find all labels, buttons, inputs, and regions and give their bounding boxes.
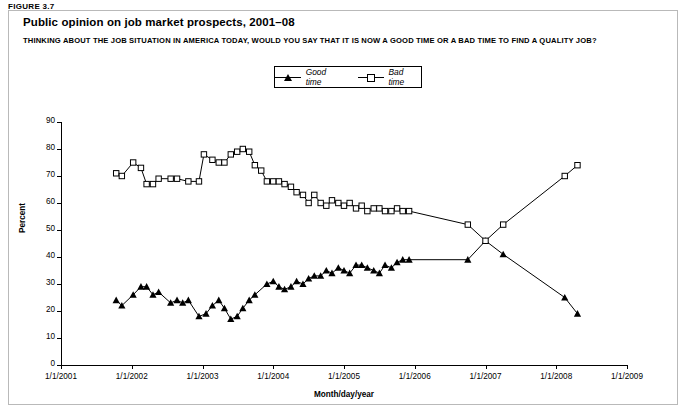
data-point-marker bbox=[400, 208, 405, 213]
data-point-marker bbox=[195, 313, 202, 320]
data-point-marker bbox=[300, 192, 305, 197]
legend-label-good-time: Good time bbox=[306, 67, 344, 87]
data-point-marker bbox=[294, 190, 299, 195]
data-point-marker bbox=[465, 222, 470, 227]
data-point-marker bbox=[174, 176, 179, 181]
y-tick-label: 70 bbox=[25, 170, 55, 179]
data-point-marker bbox=[196, 179, 201, 184]
data-point-marker bbox=[221, 305, 228, 312]
data-point-marker bbox=[382, 208, 387, 213]
y-tick-label: 40 bbox=[25, 251, 55, 260]
series-line-bad-time bbox=[116, 149, 577, 241]
data-point-marker bbox=[359, 203, 364, 208]
y-tick-label: 90 bbox=[25, 116, 55, 125]
data-point-marker bbox=[347, 200, 352, 205]
chart-subtitle: THINKING ABOUT THE JOB SITUATION IN AMER… bbox=[23, 36, 597, 45]
data-point-marker bbox=[371, 206, 376, 211]
x-tick-label: 1/1/2006 bbox=[385, 372, 445, 381]
data-point-marker bbox=[130, 160, 135, 165]
y-tick-label: 0 bbox=[25, 359, 55, 368]
data-point-marker bbox=[259, 168, 264, 173]
data-point-marker bbox=[227, 316, 234, 323]
data-point-marker bbox=[222, 160, 227, 165]
x-tick bbox=[273, 365, 274, 369]
data-point-marker bbox=[318, 200, 323, 205]
data-point-marker bbox=[155, 289, 162, 296]
data-point-marker bbox=[575, 163, 580, 168]
data-point-marker bbox=[168, 176, 173, 181]
data-point-marker bbox=[324, 203, 329, 208]
x-tick bbox=[61, 365, 62, 369]
data-point-marker bbox=[500, 251, 507, 258]
data-point-marker bbox=[335, 264, 342, 271]
data-point-marker bbox=[329, 198, 334, 203]
data-point-marker bbox=[156, 176, 161, 181]
x-tick-label: 1/1/2003 bbox=[173, 372, 233, 381]
data-point-marker bbox=[113, 297, 120, 304]
data-point-marker bbox=[246, 149, 251, 154]
series-line-good-time bbox=[116, 241, 577, 319]
data-point-marker bbox=[336, 200, 341, 205]
chart-legend: Good time Bad time bbox=[274, 66, 422, 88]
data-point-marker bbox=[293, 278, 300, 285]
data-point-marker bbox=[562, 173, 567, 178]
data-point-marker bbox=[270, 278, 277, 285]
x-tick-label: 1/1/2004 bbox=[243, 372, 303, 381]
data-point-marker bbox=[381, 262, 388, 269]
data-point-marker bbox=[216, 160, 221, 165]
data-point-marker bbox=[483, 238, 488, 243]
y-tick-label: 50 bbox=[25, 224, 55, 233]
data-point-marker bbox=[138, 165, 143, 170]
data-point-marker bbox=[113, 171, 118, 176]
x-tick-label: 1/1/2001 bbox=[31, 372, 91, 381]
data-point-marker bbox=[365, 208, 370, 213]
data-point-marker bbox=[228, 152, 233, 157]
data-point-marker bbox=[323, 267, 330, 274]
plot-area: 0102030405060708090 1/1/20011/1/20021/1/… bbox=[61, 122, 627, 365]
data-point-marker bbox=[186, 179, 191, 184]
data-point-marker bbox=[210, 157, 215, 162]
x-tick bbox=[486, 365, 487, 369]
x-tick bbox=[627, 365, 628, 369]
data-point-marker bbox=[306, 200, 311, 205]
data-point-marker bbox=[215, 297, 222, 304]
data-point-marker bbox=[119, 173, 124, 178]
x-tick bbox=[415, 365, 416, 369]
data-point-marker bbox=[406, 208, 411, 213]
y-tick-label: 10 bbox=[25, 332, 55, 341]
y-tick-label: 80 bbox=[25, 143, 55, 152]
x-tick-label: 1/1/2007 bbox=[456, 372, 516, 381]
data-point-marker bbox=[394, 206, 399, 211]
legend-item-bad-time: Bad time bbox=[358, 67, 421, 87]
data-point-marker bbox=[150, 181, 155, 186]
data-point-marker bbox=[276, 179, 281, 184]
x-tick bbox=[203, 365, 204, 369]
data-point-marker bbox=[389, 208, 394, 213]
data-point-marker bbox=[271, 179, 276, 184]
data-point-marker bbox=[252, 163, 257, 168]
data-point-marker bbox=[240, 146, 245, 151]
data-point-marker bbox=[144, 181, 149, 186]
x-tick-label: 1/1/2005 bbox=[314, 372, 374, 381]
data-point-marker bbox=[185, 297, 192, 304]
page-title: Public opinion on job market prospects, … bbox=[23, 16, 295, 28]
data-point-marker bbox=[341, 203, 346, 208]
data-point-marker bbox=[234, 149, 239, 154]
data-point-marker bbox=[173, 297, 180, 304]
data-point-marker bbox=[234, 313, 241, 320]
good-time-marker-icon bbox=[275, 73, 301, 82]
legend-item-good-time: Good time bbox=[275, 67, 344, 87]
figure-root: FIGURE 3.7 Public opinion on job market … bbox=[0, 0, 688, 413]
data-series bbox=[61, 122, 627, 365]
x-axis-label: Month/day/year bbox=[61, 390, 627, 399]
y-tick-label: 20 bbox=[25, 305, 55, 314]
data-point-marker bbox=[377, 206, 382, 211]
data-point-marker bbox=[201, 152, 206, 157]
x-tick-label: 1/1/2002 bbox=[102, 372, 162, 381]
y-tick-label: 30 bbox=[25, 278, 55, 287]
data-point-marker bbox=[288, 184, 293, 189]
x-tick-label: 1/1/2008 bbox=[526, 372, 586, 381]
data-point-marker bbox=[370, 267, 377, 274]
x-tick-label: 1/1/2009 bbox=[597, 372, 657, 381]
x-tick bbox=[556, 365, 557, 369]
